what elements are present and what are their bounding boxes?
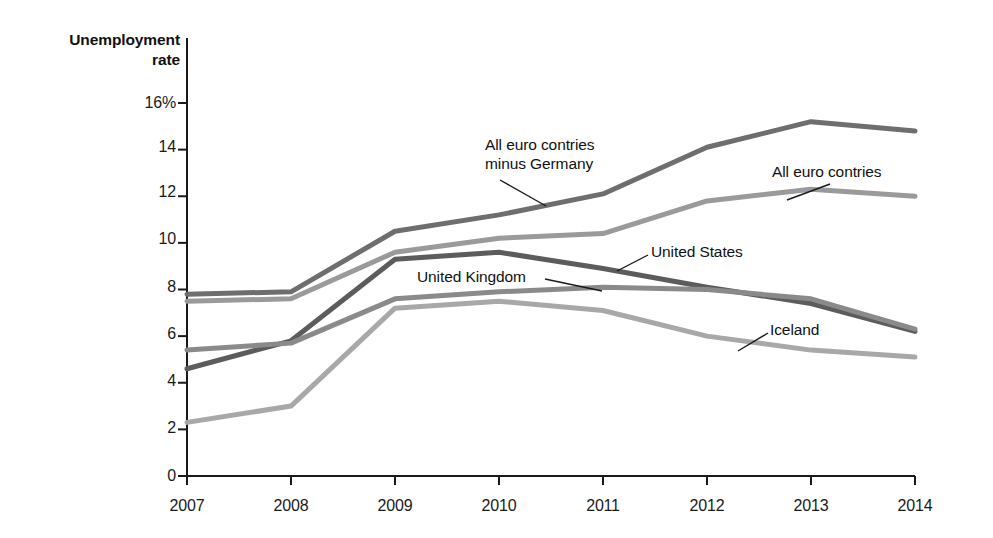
leader-line-euro-minus-germany: [500, 180, 546, 206]
annotation-euro-minus-germany-line2: minus Germany: [485, 154, 594, 173]
unemployment-rate-line-chart: Unemployment rate 16% 14 12 10 8 6 4 2 0…: [0, 0, 993, 538]
annotation-iceland: Iceland: [770, 321, 819, 339]
annotation-all-euro: All euro contries: [772, 163, 881, 181]
annotation-euro-minus-germany: All euro contries minus Germany: [485, 135, 594, 174]
y-axis-ticks: [178, 103, 187, 476]
annotation-united-states: United States: [651, 243, 743, 261]
annotation-euro-minus-germany-line1: All euro contries: [485, 135, 594, 154]
x-axis-ticks: [187, 476, 915, 485]
leader-line-united-states: [617, 255, 648, 271]
annotation-united-kingdom: United Kingdom: [417, 268, 526, 286]
series-line-iceland: [187, 301, 915, 422]
